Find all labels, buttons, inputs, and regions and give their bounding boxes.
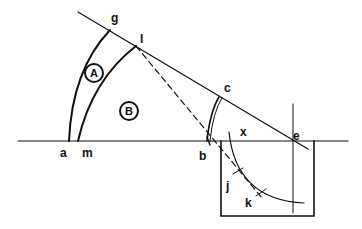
region-a-text: A bbox=[90, 67, 98, 79]
region-b-text: B bbox=[125, 105, 133, 117]
label-l: l bbox=[140, 33, 143, 45]
inclined-line bbox=[78, 12, 308, 149]
label-e: e bbox=[293, 130, 300, 142]
region-label-b: B bbox=[119, 101, 139, 121]
label-x: x bbox=[240, 126, 247, 138]
diagram-drawing bbox=[0, 0, 362, 229]
label-m: m bbox=[82, 147, 93, 159]
region-label-a: A bbox=[84, 63, 104, 83]
label-b: b bbox=[199, 150, 206, 162]
label-a: a bbox=[60, 147, 67, 159]
arc-a-g bbox=[69, 30, 110, 141]
box bbox=[221, 141, 314, 216]
diagram-canvas: g l c x e b a m j k A B bbox=[0, 0, 362, 229]
arc-m-l bbox=[78, 46, 136, 141]
label-k: k bbox=[245, 197, 252, 209]
label-c: c bbox=[224, 82, 231, 94]
label-j: j bbox=[226, 180, 229, 192]
label-g: g bbox=[111, 12, 118, 24]
